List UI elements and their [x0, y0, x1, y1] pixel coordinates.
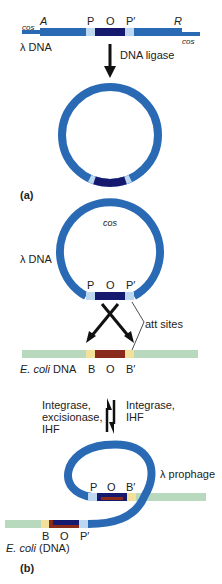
forward-label-2: IHF [126, 411, 144, 423]
site-b-label: B [88, 363, 95, 375]
reversible-arrows [107, 398, 114, 434]
prophage-ecoli-italic: E. coli [6, 542, 36, 554]
site-o-label: O [106, 15, 115, 27]
lambda-dna-label: λ DNA [20, 41, 52, 53]
reverse-label-1: Integrase, [42, 399, 91, 411]
ecoli-site-o-label: O [106, 363, 115, 375]
prophage-bottom-b-label: B [42, 530, 49, 542]
ecoli-italic: E. coli [20, 363, 50, 375]
site-p-prime-label: P′ [126, 15, 135, 27]
prophage [5, 444, 206, 528]
ecoli-dna [22, 350, 198, 358]
ecoli-rest: DNA [50, 363, 76, 375]
prophage-top-b-prime-label: B′ [126, 481, 135, 493]
reverse-label-3: IHF [42, 423, 60, 435]
prophage-bottom-p-prime-label: P′ [80, 530, 89, 542]
lambda-dna-circle-label: λ DNA [20, 253, 52, 265]
prophage-ecoli-rest: (DNA) [36, 542, 70, 554]
prophage-ecoli-label: E. coli (DNA) [6, 542, 70, 554]
cos-left-label: cos [22, 22, 34, 34]
site-p-label: P [87, 15, 94, 27]
circular-lambda-dna-a [62, 87, 158, 183]
recombination-cross-arrows [86, 304, 134, 343]
lambda-prophage-label: λ prophage [160, 468, 215, 480]
prophage-bottom-o-label: O [60, 530, 69, 542]
circle-site-o-label: O [106, 279, 115, 291]
lambda-integration-diagram [0, 0, 222, 584]
ecoli-dna-label: E. coli DNA [20, 363, 76, 375]
panel-a-label: (a) [20, 189, 33, 201]
site-b-prime-label: B′ [126, 363, 135, 375]
cos-circle-label: cos [103, 217, 117, 229]
ligase-arrow [104, 44, 116, 78]
prophage-top-p-label: P [90, 481, 97, 493]
panel-b-label: (b) [20, 562, 34, 574]
cos-right-label: cos [182, 36, 194, 48]
linear-lambda-dna [22, 28, 200, 36]
gene-a-label: A [40, 15, 47, 27]
dna-ligase-label: DNA ligase [120, 49, 174, 61]
gene-r-label: R [174, 15, 182, 27]
reverse-label-2: excisionase, [42, 411, 103, 423]
circle-site-p-label: P [87, 279, 94, 291]
prophage-top-o-label: O [107, 481, 116, 493]
att-sites-label: att sites [145, 318, 183, 330]
forward-label-1: Integrase, [126, 399, 175, 411]
circle-site-p-prime-label: P′ [126, 279, 135, 291]
